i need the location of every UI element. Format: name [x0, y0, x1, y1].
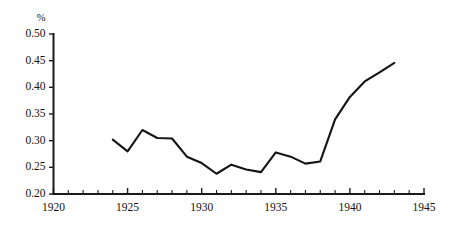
chart-canvas: % 0.200.250.300.350.400.450.50 192019251…	[0, 0, 454, 228]
x-axis-group: 192019251930193519401945	[42, 188, 436, 213]
y-axis-tick-label: 0.40	[25, 80, 45, 92]
x-axis-tick-label: 1940	[338, 201, 361, 213]
series-group	[113, 63, 395, 174]
x-axis-tick-label: 1945	[413, 201, 436, 213]
x-axis-tick-label: 1920	[42, 201, 65, 213]
y-axis-tick-label: 0.30	[25, 134, 45, 146]
y-axis-unit-label: %	[37, 12, 46, 23]
line-chart: % 0.200.250.300.350.400.450.50 192019251…	[0, 0, 454, 228]
y-axis-tick-label: 0.45	[25, 54, 45, 66]
data-series-line	[113, 63, 395, 174]
axis-unit-label-group: %	[37, 12, 46, 23]
y-axis-tick-label: 0.50	[25, 27, 45, 39]
y-axis-tick-labels: 0.200.250.300.350.400.450.50	[25, 27, 45, 199]
y-axis-tick-label: 0.35	[25, 107, 45, 119]
x-axis-tick-labels: 192019251930193519401945	[42, 201, 436, 213]
x-axis-tick-label: 1930	[190, 201, 213, 213]
x-axis-tick-label: 1925	[116, 201, 139, 213]
y-axis-tick-label: 0.25	[25, 160, 45, 172]
x-axis-tick-label: 1935	[264, 201, 287, 213]
y-axis-tick-label: 0.20	[25, 187, 45, 199]
y-axis-group: 0.200.250.300.350.400.450.50	[25, 27, 53, 199]
